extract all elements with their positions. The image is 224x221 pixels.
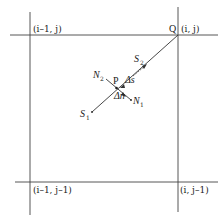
point-p-dot	[115, 87, 118, 90]
s2-subscript: 2	[140, 59, 144, 66]
s2-label: S	[134, 53, 139, 64]
delta-s-label: Δs	[124, 74, 135, 85]
delta-n-label: Δn	[113, 90, 125, 101]
point-q-label: Q	[169, 23, 177, 34]
node-label-top-right: (i, j)	[181, 24, 199, 34]
s1-label: S	[80, 108, 85, 119]
node-label-top-left: (i–1, j)	[33, 24, 62, 34]
n1-endpoint-dot	[130, 99, 132, 101]
s1-subscript: 1	[86, 114, 90, 121]
point-p-label: P	[113, 75, 119, 86]
n2-subscript: 2	[100, 75, 104, 82]
node-label-bottom-left: (i–1, j–1)	[33, 185, 72, 195]
node-label-bottom-right: (i, j–1)	[180, 185, 209, 195]
s1-endpoint-dot	[91, 111, 93, 113]
n1-subscript: 1	[140, 101, 144, 108]
grid-stencil-diagram: (i–1, j) (i, j) (i–1, j–1) (i, j–1) Q P …	[0, 0, 224, 221]
